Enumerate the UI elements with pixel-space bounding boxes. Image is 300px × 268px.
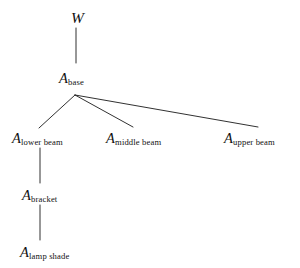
node-bracket-symbol: A bbox=[22, 187, 31, 203]
node-lower-beam-subscript: lower beam bbox=[21, 137, 63, 147]
tree-diagram-canvas: W Abase Alower beam Amiddle beam Aupper … bbox=[0, 0, 300, 268]
node-lamp-shade-symbol: A bbox=[20, 244, 29, 260]
node-upper-beam-subscript: upper beam bbox=[233, 137, 275, 147]
node-bracket[interactable]: Abracket bbox=[22, 188, 57, 203]
node-upper-beam[interactable]: Aupper beam bbox=[224, 131, 275, 146]
node-world-symbol: W bbox=[71, 9, 84, 26]
node-world[interactable]: W bbox=[71, 10, 84, 26]
node-upper-beam-symbol: A bbox=[224, 130, 233, 146]
node-middle-beam-symbol: A bbox=[106, 130, 115, 146]
node-middle-beam-subscript: middle beam bbox=[115, 137, 161, 147]
node-lower-beam[interactable]: Alower beam bbox=[12, 131, 63, 146]
node-base[interactable]: Abase bbox=[59, 71, 84, 86]
node-lower-beam-symbol: A bbox=[12, 130, 21, 146]
node-lamp-shade[interactable]: Alamp shade bbox=[20, 245, 69, 260]
tree-edge-base-to-upper_beam bbox=[75, 95, 258, 127]
node-base-subscript: base bbox=[68, 77, 84, 87]
node-middle-beam[interactable]: Amiddle beam bbox=[106, 131, 161, 146]
node-lamp-shade-subscript: lamp shade bbox=[29, 251, 69, 261]
node-base-symbol: A bbox=[59, 70, 68, 86]
node-bracket-subscript: bracket bbox=[31, 194, 57, 204]
tree-edge-base-to-lower_beam bbox=[39, 95, 75, 128]
